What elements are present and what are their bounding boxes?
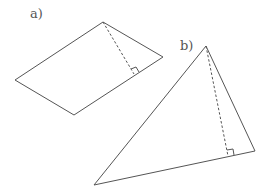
- parallelogram-a: [15, 22, 163, 115]
- triangle-b: [94, 46, 255, 185]
- height-line-a: [103, 22, 134, 74]
- height-line-b: [206, 46, 228, 156]
- right-angle-mark-a: [131, 67, 139, 72]
- geometry-diagram: [0, 0, 265, 195]
